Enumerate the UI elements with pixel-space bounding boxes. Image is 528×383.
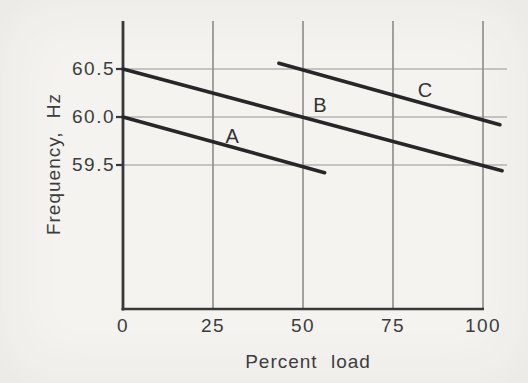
x-tick-label-75: 75 [381, 315, 405, 337]
x-axis-title: Percent load [245, 351, 371, 373]
droop-line-B [123, 69, 502, 171]
y-tick-label-60.5: 60.5 [72, 58, 115, 80]
frequency-droop-chart: Percent load Frequency, Hz 025507510060.… [0, 0, 528, 383]
y-tick-label-60.0: 60.0 [72, 106, 115, 128]
y-tick-label-59.5: 59.5 [72, 154, 115, 176]
droop-line-A [123, 117, 325, 173]
x-tick-label-0: 0 [117, 315, 129, 337]
x-tick-label-50: 50 [291, 315, 315, 337]
series-label-A: A [225, 125, 238, 148]
x-tick-label-100: 100 [465, 315, 501, 337]
series-label-B: B [313, 94, 326, 117]
droop-line-C [279, 63, 500, 124]
y-axis-title: Frequency, Hz [43, 93, 65, 235]
series-label-C: C [418, 79, 432, 102]
x-tick-label-25: 25 [201, 315, 225, 337]
